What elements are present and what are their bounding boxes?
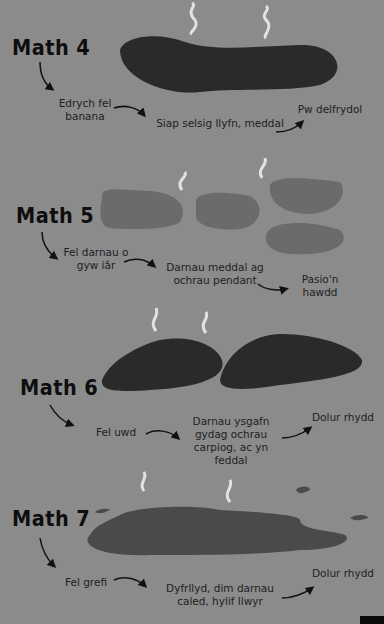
type6-stool-icon: [102, 334, 362, 391]
math7-label-2: Dyfrllyd, dim darnaucaled, hylif llwyr: [160, 582, 280, 608]
section-title-math4: Math 4: [12, 36, 90, 60]
math7-label-1: Fel grefi: [56, 576, 116, 589]
math4-label-2: Siap selsig llyfn, meddal: [150, 117, 290, 130]
corner-mark: [360, 616, 384, 624]
section-title-math7: Math 7: [12, 507, 90, 531]
math5-label-2: Darnau meddal agochrau pendant: [160, 261, 270, 287]
math7-label-3: Dolur rhydd: [308, 567, 378, 580]
math6-label-3: Dolur rhydd: [308, 411, 378, 424]
math5-label-3: Pasio'nhawdd: [290, 273, 350, 299]
section-title-math6: Math 6: [20, 376, 98, 400]
math6-label-1: Fel uwd: [86, 426, 146, 439]
type5-stool-icon: [100, 178, 343, 254]
math5-label-1: Fel darnau ogyw iâr: [56, 246, 136, 272]
math6-label-2: Darnau ysgafngydag ochraucarpiog, ac ynf…: [186, 415, 276, 467]
math4-label-3: Pw delfrydol: [290, 103, 370, 116]
type4-stool-icon: [120, 3, 337, 93]
section-title-math5: Math 5: [16, 204, 94, 228]
math4-label-1: Edrych felbanana: [50, 97, 120, 123]
